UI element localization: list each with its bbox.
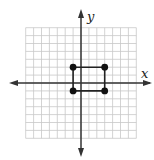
plotted-point: [101, 88, 108, 95]
x-axis-label: x: [141, 66, 149, 81]
y-axis-up-arrow-icon: [78, 9, 84, 18]
y-axis-down-arrow-icon: [78, 148, 84, 157]
plotted-point: [70, 88, 77, 95]
coordinate-plane: x y: [0, 0, 154, 160]
y-axis-label: y: [86, 9, 95, 24]
plotted-point: [101, 64, 108, 71]
x-axis-left-arrow-icon: [9, 80, 18, 86]
plotted-point: [70, 64, 77, 71]
axes: x y: [9, 9, 152, 157]
